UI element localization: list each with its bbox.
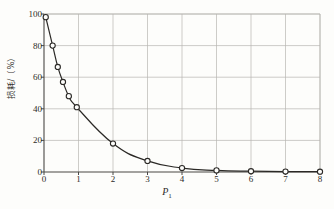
- y-tick-label: 40: [16, 104, 42, 114]
- x-tick-label: 8: [310, 174, 330, 184]
- x-tick-label: 7: [276, 174, 296, 184]
- y-axis-label: 损耗/（%）: [4, 38, 16, 114]
- axis-tick-marks: [41, 14, 320, 175]
- x-tick-label: 4: [172, 174, 192, 184]
- x-tick-label: 0: [34, 174, 54, 184]
- x-tick-label: 5: [207, 174, 227, 184]
- gridlines: [44, 14, 320, 172]
- x-tick-label: 6: [241, 174, 261, 184]
- y-tick-label: 100: [16, 9, 42, 19]
- x-axis-label-subscript: 1: [168, 192, 172, 200]
- x-tick-label: 2: [103, 174, 123, 184]
- x-tick-label: 3: [138, 174, 158, 184]
- data-series-line: [46, 17, 320, 172]
- y-tick-label: 80: [16, 41, 42, 51]
- x-tick-label: 1: [69, 174, 89, 184]
- y-tick-label: 20: [16, 135, 42, 145]
- y-tick-label: 60: [16, 72, 42, 82]
- x-axis-label: P1: [0, 186, 334, 200]
- data-point-markers: [43, 15, 322, 175]
- chart-figure: 020406080100 012345678 损耗/（%） P1: [0, 0, 334, 209]
